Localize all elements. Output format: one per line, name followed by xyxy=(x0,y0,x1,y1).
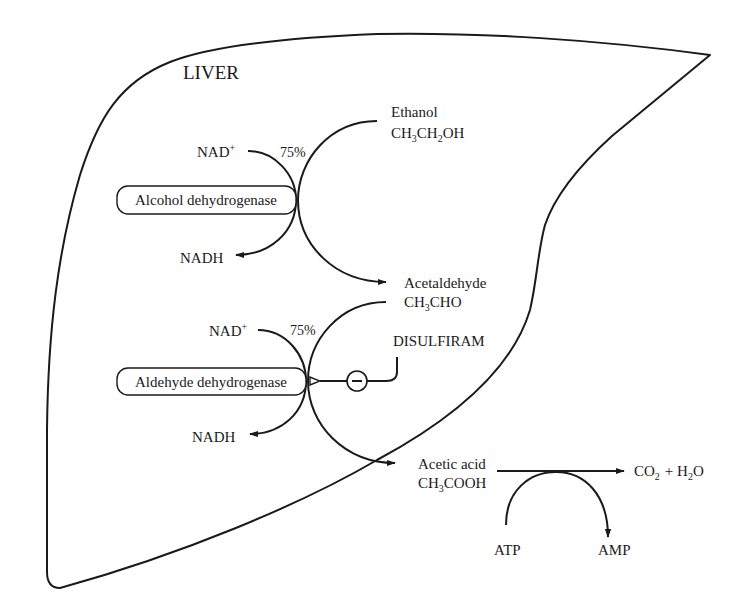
liver-outline xyxy=(47,34,710,588)
ethanol-label: Ethanol xyxy=(391,104,438,120)
ethanol-formula: CH3CH2OH xyxy=(391,125,465,144)
amp-label: AMP xyxy=(598,542,631,558)
inhibitor-connector xyxy=(367,357,397,381)
percentage-label-2: 75% xyxy=(290,323,316,338)
organ-label: LIVER xyxy=(183,62,239,83)
percentage-label-1: 75% xyxy=(280,145,306,160)
enzyme-label-alcohol-dehydrogenase: Alcohol dehydrogenase xyxy=(135,192,277,208)
acetaldehyde-label: Acetaldehyde xyxy=(404,275,487,291)
ethanol-to-acetaldehyde-arrow xyxy=(298,121,386,282)
acetic-acid-formula: CH3COOH xyxy=(418,475,487,494)
enzyme-label-aldehyde-dehydrogenase: Aldehyde dehydrogenase xyxy=(135,374,287,390)
nadh-label-2: NADH xyxy=(192,429,235,445)
nad-plus-label-1: NAD+ xyxy=(197,142,236,160)
nad-plus-label-2: NAD+ xyxy=(209,321,248,339)
acetaldehyde-formula: CH3CHO xyxy=(404,294,462,313)
acetic-acid-label: Acetic acid xyxy=(418,456,486,472)
co2-h2o-label: CO2+ H2O xyxy=(634,463,704,482)
atp-to-amp-arrow xyxy=(506,472,608,537)
nadh-label-1: NADH xyxy=(180,250,223,266)
ethanol-metabolism-diagram: LIVER Ethanol CH3CH2OH NAD+ 75% Alcohol … xyxy=(0,0,754,616)
inhibitor-label-disulfiram: DISULFIRAM xyxy=(393,333,485,349)
atp-label: ATP xyxy=(494,542,521,558)
